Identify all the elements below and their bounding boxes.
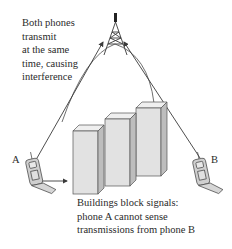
interference-caption: Both phones transmit at the same time, c… xyxy=(22,16,78,84)
caption-line: interference xyxy=(22,70,78,84)
phone-b-label: B xyxy=(211,154,218,165)
caption-line: Both phones xyxy=(22,16,78,30)
caption-line: transmit xyxy=(22,30,78,44)
caption-line: time, causing xyxy=(22,57,78,71)
caption-line: Buildings block signals: xyxy=(77,196,195,210)
phone-a-label: A xyxy=(12,154,20,165)
caption-line: transmissions from phone B xyxy=(77,223,195,237)
caption-line: at the same xyxy=(22,43,78,57)
buildings-block xyxy=(73,102,167,194)
blocking-caption: Buildings block signals: phone A cannot … xyxy=(77,196,195,237)
cell-tower-icon xyxy=(104,13,127,55)
caption-line: phone A cannot sense xyxy=(77,210,195,224)
mobile-phone-icon xyxy=(191,149,224,198)
mobile-phone-icon xyxy=(24,149,57,198)
